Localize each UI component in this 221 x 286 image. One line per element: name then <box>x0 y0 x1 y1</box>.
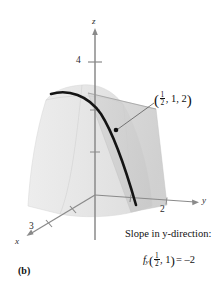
formula-fraction-one-half: 1 2 <box>154 252 160 268</box>
y-tick-label-2: 2 <box>160 205 165 215</box>
figure-3d-partial-derivative: z y x 4 2 3 ( 1 2 , 1, 2 ) Slope in y-di… <box>0 0 221 286</box>
formula-fraction-numerator: 1 <box>154 252 160 260</box>
formula-close-paren: ) <box>171 255 175 267</box>
point-coordinate-label: ( 1 2 , 1, 2 ) <box>154 91 192 107</box>
x-tick-label-3: 3 <box>29 222 34 232</box>
formula-fraction-denominator: 2 <box>154 259 160 268</box>
z-axis-label: z <box>92 17 96 26</box>
formula-equals-value: = –2 <box>176 255 195 266</box>
point-remaining-coords: , 1, 2 <box>166 94 187 105</box>
x-axis-label: x <box>15 237 19 246</box>
slope-formula: fy ( 1 2 , 1 ) = –2 <box>143 252 195 268</box>
point-close-paren: ) <box>187 94 192 108</box>
formula-arg-rest: , 1 <box>160 255 171 266</box>
y-axis-label: y <box>202 196 206 205</box>
figure-caption: (b) <box>18 266 30 276</box>
fraction-denominator: 2 <box>160 98 166 107</box>
point-marker <box>114 128 119 133</box>
fraction-numerator: 1 <box>160 91 166 99</box>
slope-annotation-title: Slope in y-direction: <box>125 229 211 240</box>
point-open-paren: ( <box>154 94 159 108</box>
formula-open-paren: ( <box>149 255 153 267</box>
point-fraction-one-half: 1 2 <box>160 91 166 107</box>
slope-title-text: Slope in y-direction: <box>125 228 211 239</box>
z-tick-label-4: 4 <box>76 56 81 66</box>
surface-plot-svg <box>0 0 221 286</box>
